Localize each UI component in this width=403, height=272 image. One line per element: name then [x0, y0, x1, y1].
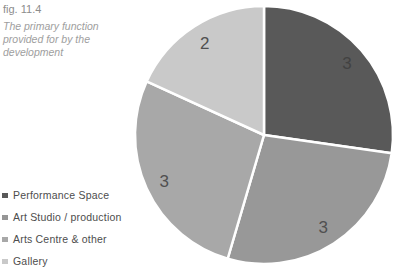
legend-item: Performance Space: [2, 184, 122, 206]
legend-item-label: Gallery: [13, 255, 48, 267]
figure-label: fig. 11.4: [3, 3, 102, 15]
figure-header: fig. 11.4 The primary function provided …: [3, 3, 102, 59]
legend-item-label: Arts Centre & other: [13, 233, 107, 245]
pie-slice: [264, 6, 393, 153]
legend-swatch: [2, 259, 8, 264]
legend-swatch: [2, 237, 8, 242]
pie-slice-label: 3: [342, 54, 351, 73]
legend-swatch: [2, 215, 8, 220]
legend-item: Art Studio / production: [2, 206, 122, 228]
legend: Performance Space Art Studio / productio…: [2, 184, 122, 272]
legend-item: Gallery: [2, 250, 122, 272]
figure-caption: The primary function provided for by the…: [3, 20, 102, 59]
legend-item: Arts Centre & other: [2, 228, 122, 250]
pie-slice-label: 2: [200, 34, 209, 53]
legend-swatch: [2, 193, 8, 198]
legend-item-label: Performance Space: [13, 189, 109, 201]
legend-item-label: Art Studio / production: [13, 211, 122, 223]
pie-slice-label: 3: [160, 172, 169, 191]
pie-slice-label: 3: [319, 218, 328, 237]
figure-pie-chart: fig. 11.4 The primary function provided …: [0, 0, 403, 272]
